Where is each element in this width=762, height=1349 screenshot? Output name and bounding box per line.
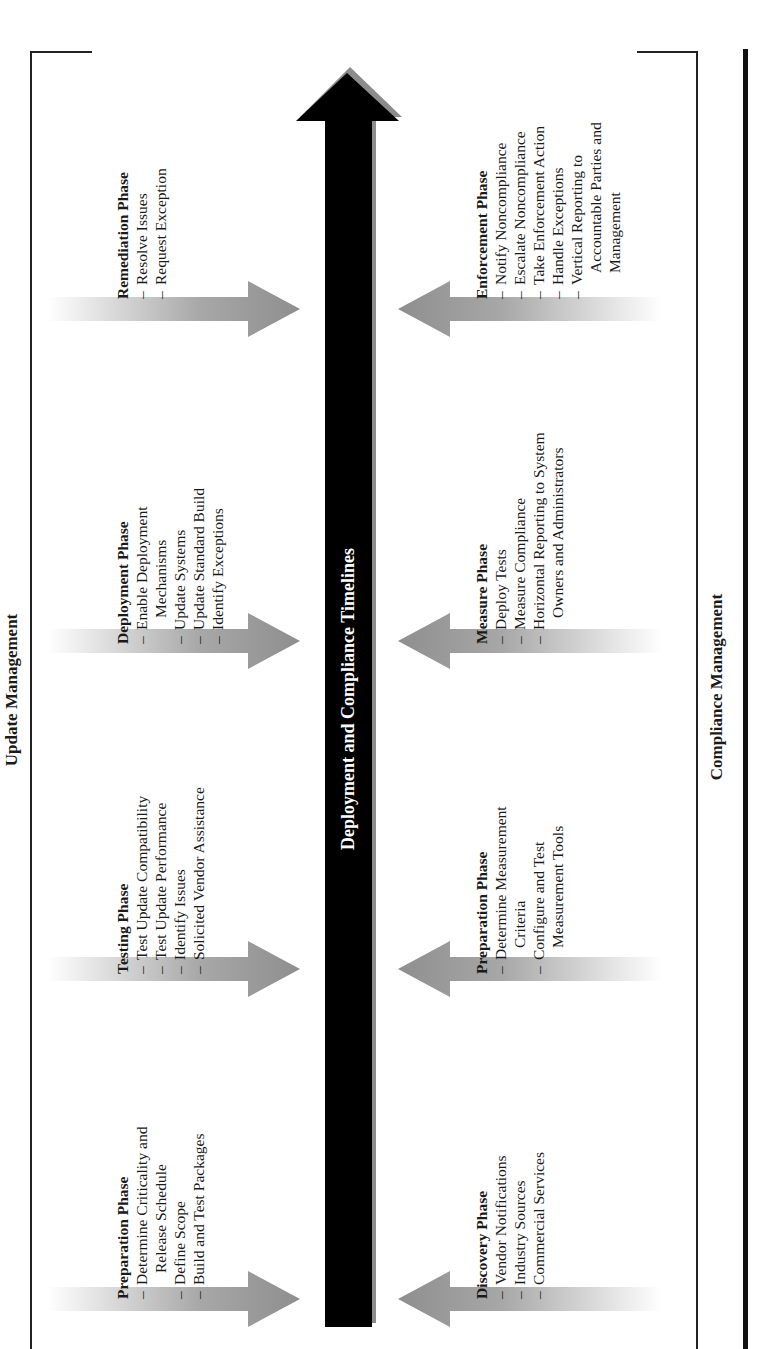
phase-item: Vertical Reporting to (567, 122, 586, 299)
phase-item: Identify Exceptions (208, 488, 227, 644)
phase-item: Build and Test Packages (189, 1127, 208, 1299)
phase-item-continuation: Criteria (510, 806, 529, 974)
phase-item: Escalate Noncompliance (510, 122, 529, 299)
compliance-bracket-line (696, 51, 698, 1349)
phase-item: Enable Deployment (132, 488, 151, 644)
phase-item: Determine Criticality and (132, 1127, 151, 1299)
phase-item: Deploy Tests (491, 432, 510, 644)
phase-item: Identify Issues (170, 787, 189, 974)
phase-item: Update Systems (170, 488, 189, 644)
phase-item: Test Update Performance (151, 787, 170, 974)
phase-item: Resolve Issues (132, 168, 151, 299)
timeline-label: Deployment and Compliance Timelines (325, 249, 372, 1149)
phase-item-continuation: Management (605, 122, 624, 299)
compliance-phase-enforcement: Enforcement Phase Notify Noncompliance E… (472, 122, 624, 299)
phase-item: Test Update Compatibility (132, 787, 151, 974)
bottom-rule (743, 49, 748, 1349)
update-bracket-line (30, 51, 32, 1349)
compliance-bracket-tick (637, 51, 698, 53)
phase-item: Take Enforcement Action (529, 122, 548, 299)
update-bracket-tick (30, 51, 92, 53)
update-phase-preparation: Preparation Phase Determine Criticality … (113, 1127, 208, 1299)
phase-item: Industry Sources (510, 1152, 529, 1299)
compliance-phase-measure: Measure Phase Deploy Tests Measure Compl… (472, 432, 567, 644)
phase-arrow-down-icon (48, 279, 302, 339)
phase-item: Handle Exceptions (548, 122, 567, 299)
phase-item-continuation: Mechanisms (151, 488, 170, 644)
compliance-phase-preparation: Preparation Phase Determine Measurement … (472, 806, 567, 974)
phase-item: Solicited Vendor Assistance (189, 787, 208, 974)
update-phase-testing: Testing Phase Test Update Compatibility … (113, 787, 208, 974)
phase-item: Notify Noncompliance (491, 122, 510, 299)
phase-item: Define Scope (170, 1127, 189, 1299)
diagram-canvas: Update Management Compliance Management … (0, 0, 762, 1349)
phase-item: Measure Compliance (510, 432, 529, 644)
update-management-title: Update Management (2, 590, 22, 790)
compliance-phase-discovery: Discovery Phase Vendor Notifications Ind… (472, 1152, 548, 1299)
phase-item: Configure and Test (529, 806, 548, 974)
phase-item-continuation: Measurement Tools (548, 806, 567, 974)
phase-item: Determine Measurement (491, 806, 510, 974)
phase-item-continuation: Release Schedule (151, 1127, 170, 1299)
phase-item: Request Exception (151, 168, 170, 299)
update-phase-remediation: Remediation Phase Resolve Issues Request… (113, 168, 170, 299)
update-phase-deployment: Deployment Phase Enable Deployment Mecha… (113, 488, 227, 644)
phase-item: Vendor Notifications (491, 1152, 510, 1299)
phase-item: Update Standard Build (189, 488, 208, 644)
phase-item-continuation: Owners and Administrators (548, 432, 567, 644)
compliance-management-title: Compliance Management (707, 537, 727, 837)
phase-item: Horizontal Reporting to System (529, 432, 548, 644)
phase-item: Commercial Services (529, 1152, 548, 1299)
phase-item-continuation: Accountable Parties and (586, 122, 605, 299)
